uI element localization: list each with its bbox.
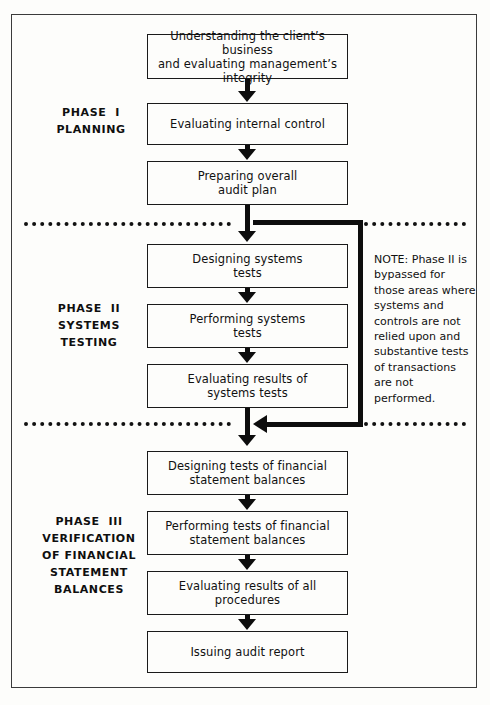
step-node-label: Understanding the client’s business and … bbox=[152, 29, 343, 85]
note-line-5: controls are not bbox=[374, 314, 472, 329]
arrow-shaft-6 bbox=[245, 408, 250, 438]
step-node-label: Evaluating results of all procedures bbox=[179, 579, 316, 607]
step-node-label: Evaluating results of systems tests bbox=[188, 372, 308, 400]
phase-label-2-line-3: TESTING bbox=[27, 334, 151, 351]
step-node-understanding-client-business[interactable]: Understanding the client’s business and … bbox=[147, 34, 348, 79]
step-node-evaluating-results-all-procedures[interactable]: Evaluating results of all procedures bbox=[147, 571, 348, 615]
phase-label-2-line-1: PHASE II bbox=[27, 300, 151, 317]
note-line-6: relied upon and bbox=[374, 329, 472, 344]
step-8-line-2: statement balances bbox=[190, 533, 306, 547]
step-3-line-1: Preparing overall bbox=[198, 169, 298, 183]
step-node-designing-systems-tests[interactable]: Designing systems tests bbox=[147, 244, 348, 288]
note-line-9: are not bbox=[374, 375, 472, 390]
arrow-head-2 bbox=[238, 149, 256, 160]
step-node-issuing-audit-report[interactable]: Issuing audit report bbox=[147, 631, 348, 673]
step-node-label: Evaluating internal control bbox=[170, 117, 325, 131]
step-node-label: Performing tests of financial statement … bbox=[165, 519, 330, 547]
phase-label-3-line-5: BALANCES bbox=[22, 581, 156, 598]
note-line-10: performed. bbox=[374, 391, 472, 406]
phase-label-3-line-3: OF FINANCIAL bbox=[22, 547, 156, 564]
arrow-head-8 bbox=[238, 559, 256, 570]
step-4-line-1: Designing systems bbox=[192, 252, 302, 266]
arrow-head-9 bbox=[238, 619, 256, 630]
arrow-shaft-3 bbox=[245, 205, 250, 234]
step-7-line-1: Designing tests of financial bbox=[168, 459, 327, 473]
step-node-preparing-overall-audit-plan[interactable]: Preparing overall audit plan bbox=[147, 161, 348, 205]
step-node-evaluating-internal-control[interactable]: Evaluating internal control bbox=[147, 103, 348, 145]
note-line-1: NOTE: Phase II is bbox=[374, 252, 472, 267]
phase-label-1-line-1: PHASE I bbox=[32, 104, 150, 121]
step-4-line-2: tests bbox=[233, 266, 262, 280]
step-8-line-1: Performing tests of financial bbox=[165, 519, 330, 533]
phase-label-3-line-4: STATEMENT bbox=[22, 564, 156, 581]
phase-label-2: PHASE II SYSTEMS TESTING bbox=[27, 300, 151, 351]
step-node-label: Designing systems tests bbox=[192, 252, 302, 280]
step-6-line-1: Evaluating results of bbox=[188, 372, 308, 386]
note-line-7: substantive tests bbox=[374, 344, 472, 359]
step-6-line-2: systems tests bbox=[207, 386, 288, 400]
step-node-designing-tests-financial-statement-balances[interactable]: Designing tests of financial statement b… bbox=[147, 451, 348, 495]
step-node-label: Performing systems tests bbox=[190, 312, 306, 340]
step-7-line-2: statement balances bbox=[190, 473, 306, 487]
arrow-head-5 bbox=[238, 352, 256, 363]
flowchart-page: PHASE I PLANNING Understanding the clien… bbox=[0, 0, 490, 705]
phase-separator-2-left bbox=[24, 422, 231, 426]
step-node-performing-tests-financial-statement-balances[interactable]: Performing tests of financial statement … bbox=[147, 511, 348, 555]
step-9-line-1: Evaluating results of all bbox=[179, 579, 316, 593]
arrow-head-4 bbox=[238, 292, 256, 303]
bypass-line-bottom-horizontal bbox=[266, 422, 363, 427]
phase-label-1: PHASE I PLANNING bbox=[32, 104, 150, 138]
step-2-line-1: Evaluating internal control bbox=[170, 117, 325, 131]
step-5-line-2: tests bbox=[233, 326, 262, 340]
step-9-line-2: procedures bbox=[215, 593, 280, 607]
phase-label-3: PHASE III VERIFICATION OF FINANCIAL STAT… bbox=[22, 513, 156, 598]
arrow-head-1 bbox=[238, 91, 256, 102]
phase-separator-2-right bbox=[364, 422, 466, 426]
phase-label-1-line-2: PLANNING bbox=[32, 121, 150, 138]
arrow-head-7 bbox=[238, 499, 256, 510]
phase-label-2-line-2: SYSTEMS bbox=[27, 317, 151, 334]
arrow-head-6 bbox=[238, 435, 256, 446]
bypass-line-vertical bbox=[358, 220, 363, 427]
step-node-evaluating-results-systems-tests[interactable]: Evaluating results of systems tests bbox=[147, 364, 348, 408]
note-line-2: bypassed for bbox=[374, 267, 472, 282]
step-1-line-1: Understanding the client’s business bbox=[170, 29, 325, 57]
arrow-head-3 bbox=[238, 231, 256, 242]
step-node-label: Issuing audit report bbox=[190, 645, 304, 659]
phase-label-3-line-1: PHASE III bbox=[22, 513, 156, 530]
note-line-3: those areas where bbox=[374, 283, 472, 298]
note-line-4: systems and bbox=[374, 298, 472, 313]
step-node-label: Designing tests of financial statement b… bbox=[168, 459, 327, 487]
bypass-note: NOTE: Phase II is bypassed for those are… bbox=[374, 252, 472, 406]
phase-label-3-line-2: VERIFICATION bbox=[22, 530, 156, 547]
phase-separator-1-left bbox=[24, 222, 231, 226]
phase-separator-1-right bbox=[364, 222, 466, 226]
step-10-line-1: Issuing audit report bbox=[190, 645, 304, 659]
step-5-line-1: Performing systems bbox=[190, 312, 306, 326]
step-3-line-2: audit plan bbox=[218, 183, 277, 197]
bypass-arrow-head bbox=[253, 415, 267, 433]
bypass-line-top-horizontal bbox=[253, 220, 363, 225]
step-node-label: Preparing overall audit plan bbox=[198, 169, 298, 197]
step-node-performing-systems-tests[interactable]: Performing systems tests bbox=[147, 304, 348, 348]
note-line-8: of transactions bbox=[374, 360, 472, 375]
